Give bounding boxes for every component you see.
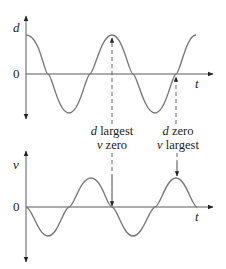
velocity-graph: v 0 t	[13, 151, 213, 262]
shm-diagram: d 0 t d largest v zero d zero v largest …	[0, 0, 226, 269]
label-d-zero: d zero	[163, 124, 194, 138]
label-d-largest: d largest	[91, 124, 134, 138]
v-axis-label: v	[13, 157, 19, 172]
bottom-origin-label: 0	[13, 199, 20, 214]
d-axis-label: d	[13, 20, 20, 35]
displacement-graph: d 0 t	[13, 16, 213, 119]
t-label-top: t	[195, 76, 199, 91]
t-label-bottom: t	[195, 209, 199, 224]
top-origin-label: 0	[13, 66, 20, 81]
label-v-zero: v zero	[97, 138, 127, 152]
annotation-d-zero: d zero v largest	[157, 77, 199, 176]
label-v-largest: v largest	[157, 138, 199, 152]
